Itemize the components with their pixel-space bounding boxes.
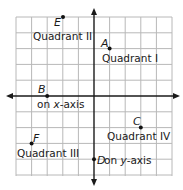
point-c-desc: Quadrant IV [107, 130, 171, 142]
point-a-letter: A [100, 37, 109, 50]
point-e [61, 15, 65, 19]
point-f-letter: F [33, 132, 40, 145]
point-b-letter: B [38, 83, 46, 96]
x-axis-right-arrow-icon [173, 93, 180, 99]
y-axis-top-arrow-icon [91, 8, 97, 15]
point-f-desc: Quadrant III [17, 147, 79, 159]
point-c-letter: C [133, 115, 141, 128]
point-b-desc: on x-axis [37, 98, 84, 110]
point-d [92, 157, 96, 161]
point-e-letter: E [54, 16, 61, 29]
coordinate-plane: E Quadrant II A Quadrant I B on x-axis C… [0, 0, 183, 190]
point-a-desc: Quadrant I [102, 52, 158, 64]
x-axis-left-arrow-icon [6, 93, 13, 99]
y-axis-bottom-arrow-icon [91, 179, 97, 186]
point-d-desc: on y-axis [104, 154, 151, 166]
point-e-desc: Quadrant II [33, 30, 92, 42]
